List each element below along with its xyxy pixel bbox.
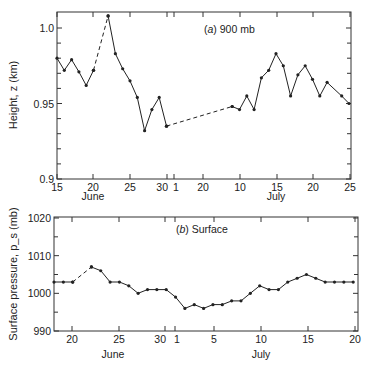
- data-point: [137, 292, 140, 295]
- panel-text: Surface: [192, 223, 228, 235]
- data-point: [118, 280, 121, 283]
- y-tick-label: 1000: [28, 287, 52, 299]
- data-line: [91, 267, 353, 308]
- x-tick-label: 20: [349, 333, 361, 345]
- data-point: [92, 69, 95, 72]
- data-point: [202, 307, 205, 310]
- data-point: [267, 69, 270, 72]
- month-label: July: [252, 348, 271, 360]
- data-point: [165, 288, 168, 291]
- x-tick-label: 15: [302, 333, 314, 345]
- data-point: [221, 303, 224, 306]
- data-point: [352, 280, 355, 283]
- data-point: [296, 73, 299, 76]
- data-line: [232, 54, 349, 110]
- data-point: [63, 69, 66, 72]
- x-tick-label: 30: [156, 181, 168, 193]
- x-tick-label: 5: [211, 333, 217, 345]
- y-tick-label: 1020: [28, 212, 52, 224]
- data-point: [165, 125, 168, 128]
- y-axis-title: Surface pressure, p_s (mb): [7, 207, 19, 340]
- data-point: [127, 284, 130, 287]
- chart-900mb: 0.90.951.01520253012010152025JuneJulyHei…: [7, 12, 356, 202]
- data-point: [245, 94, 248, 97]
- y-tick-label: 0.95: [34, 98, 55, 110]
- plot-frame: [57, 12, 351, 179]
- data-point: [231, 105, 234, 108]
- x-tick-label: 30: [154, 333, 166, 345]
- data-point: [107, 14, 110, 17]
- data-point: [183, 307, 186, 310]
- data-point: [109, 280, 112, 283]
- data-point: [90, 265, 93, 268]
- panel-label: (b) Surface: [176, 223, 228, 235]
- data-point: [155, 288, 158, 291]
- data-point: [70, 58, 73, 61]
- data-point: [333, 280, 336, 283]
- data-point: [114, 52, 117, 55]
- data-point: [340, 94, 343, 97]
- data-point: [318, 94, 321, 97]
- data-point: [55, 57, 58, 60]
- data-point: [136, 96, 139, 99]
- data-point: [311, 78, 314, 81]
- x-tick-label: 25: [113, 333, 125, 345]
- data-point: [52, 280, 55, 283]
- x-tick-label: 25: [344, 181, 356, 193]
- data-point: [326, 81, 329, 84]
- x-tick-label: 10: [255, 333, 267, 345]
- data-point: [314, 277, 317, 280]
- data-point: [77, 70, 80, 73]
- data-point: [150, 108, 153, 111]
- data-line-dashed: [167, 107, 233, 127]
- data-point: [128, 79, 131, 82]
- data-point: [146, 288, 149, 291]
- data-point: [289, 94, 292, 97]
- data-point: [239, 299, 242, 302]
- x-tick-label: 20: [197, 181, 209, 193]
- y-tick-label: 990: [33, 325, 51, 337]
- data-point: [267, 288, 270, 291]
- data-point: [258, 284, 261, 287]
- data-point: [304, 64, 307, 67]
- x-tick-label: 20: [66, 333, 78, 345]
- data-point: [211, 303, 214, 306]
- data-point: [238, 108, 241, 111]
- x-tick-label: 1: [174, 333, 180, 345]
- data-point: [174, 296, 177, 299]
- data-point: [99, 269, 102, 272]
- y-tick-label: 1.0: [39, 22, 54, 34]
- data-point: [347, 102, 350, 105]
- data-line: [57, 58, 94, 85]
- data-point: [121, 67, 124, 70]
- data-line-dashed: [73, 267, 92, 282]
- data-point: [260, 76, 263, 79]
- data-point: [342, 280, 345, 283]
- x-tick-label: 15: [51, 181, 63, 193]
- data-point: [324, 280, 327, 283]
- data-point: [296, 277, 299, 280]
- data-point: [71, 280, 74, 283]
- x-tick-label: 1: [173, 181, 179, 193]
- x-tick-label: 20: [307, 181, 319, 193]
- panel-text: 900 mb: [220, 23, 255, 35]
- y-axis-title: Height, z (km): [7, 61, 19, 129]
- data-point: [62, 280, 65, 283]
- y-tick-label: 1010: [28, 250, 52, 262]
- data-point: [277, 288, 280, 291]
- month-label: June: [102, 348, 125, 360]
- data-point: [143, 129, 146, 132]
- data-point: [249, 292, 252, 295]
- data-point: [158, 96, 161, 99]
- data-point: [282, 64, 285, 67]
- chart-surface: 99010001010102020253015101520JuneJulySur…: [7, 207, 361, 360]
- data-point: [230, 299, 233, 302]
- data-point: [286, 280, 289, 283]
- data-point: [253, 108, 256, 111]
- x-tick-label: 25: [124, 181, 136, 193]
- panel-label: (a) 900 mb: [204, 23, 255, 35]
- data-line: [108, 16, 166, 131]
- data-point: [274, 52, 277, 55]
- month-label: June: [82, 190, 105, 202]
- figure: 0.90.951.01520253012010152025JuneJulyHei…: [0, 0, 370, 369]
